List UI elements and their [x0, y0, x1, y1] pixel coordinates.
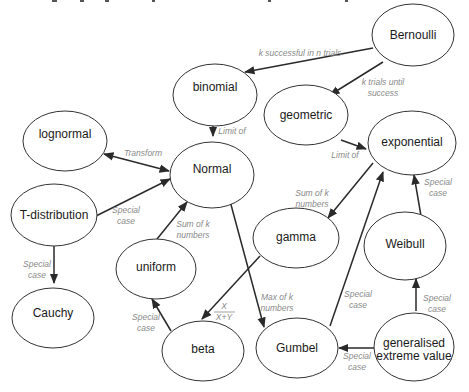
edge-tdist-normal: Special case	[96, 179, 170, 226]
edge-label: numbers	[176, 230, 210, 240]
edge-label: case	[428, 304, 446, 314]
node-generalised-extreme-value: generalised extreme value	[374, 313, 454, 381]
node-label: T-distribution	[20, 208, 89, 222]
edge-label: Special	[343, 351, 372, 361]
edge-label: Special	[132, 312, 161, 322]
edge-label: case	[348, 362, 366, 372]
edge-label: Sum of k	[295, 188, 329, 198]
node-label: beta	[191, 342, 215, 356]
node-label: Normal	[193, 162, 232, 176]
node-cauchy: Cauchy	[12, 288, 94, 348]
edge-label: success	[368, 88, 399, 98]
node-exponential: exponential	[368, 111, 456, 175]
edge-label: case	[429, 188, 447, 198]
node-label: Bernoulli	[390, 28, 437, 42]
node-t-distribution: T-distribution	[11, 184, 97, 246]
edge-label: numbers	[260, 303, 294, 313]
node-gumbel: Gumbel	[256, 318, 338, 378]
edge-label: case	[28, 270, 46, 280]
edge-gev-gumbel: Special case	[339, 348, 374, 372]
cropped-title-fragment	[52, 0, 348, 2]
node-gamma: gamma	[253, 208, 339, 268]
node-bernoulli: Bernoulli	[372, 4, 454, 66]
edge-beta-uniform: Special case	[132, 299, 171, 333]
edge-label: X	[220, 301, 227, 311]
edge-label: Special	[424, 177, 453, 187]
edge-bernoulli-binomial: k successful in n trials	[245, 48, 373, 72]
edge-label: case	[117, 216, 135, 226]
edge-label: Sum of k	[176, 219, 210, 229]
node-label: uniform	[136, 260, 176, 274]
node-label: Weibull	[385, 237, 424, 251]
node-geometric: geometric	[264, 85, 348, 145]
node-beta: beta	[162, 321, 244, 381]
node-label: Cauchy	[33, 306, 74, 320]
node-label: Gumbel	[276, 341, 318, 355]
edge-weibull-exponential: Special case	[414, 175, 453, 216]
node-lognormal: lognormal	[23, 111, 107, 171]
node-binomial: binomial	[173, 64, 257, 126]
node-label: exponential	[381, 135, 442, 149]
edge-label: Special	[23, 259, 52, 269]
edge-bernoulli-geometric: k trials until success	[330, 62, 405, 98]
edge-label: Special	[423, 293, 452, 303]
edge-label: Max of k	[261, 292, 294, 302]
edge-label: Special	[344, 289, 373, 299]
edge-tdist-cauchy: Special case	[23, 246, 54, 283]
node-label: lognormal	[39, 127, 92, 141]
edge-binomial-normal: Limit of	[213, 126, 247, 136]
node-weibull: Weibull	[364, 212, 446, 280]
node-uniform: uniform	[116, 239, 196, 299]
edge-label: k successful in n trials	[259, 48, 342, 58]
edge-gamma-beta: X X+Y	[202, 256, 260, 322]
edge-label: case	[349, 300, 367, 310]
node-label: gamma	[276, 230, 316, 244]
edge-label: case	[137, 323, 155, 333]
edge-label: Limit of	[331, 150, 360, 160]
edge-label: k trials until	[362, 77, 406, 87]
edge-label: Transform	[124, 148, 162, 158]
edge-geometric-exponential: Limit of	[331, 140, 366, 160]
node-normal: Normal	[170, 142, 254, 208]
edge-label: Special	[112, 205, 141, 215]
edge-label: Limit of	[218, 126, 247, 136]
edge-label: X+Y	[215, 312, 234, 322]
node-label: geometric	[280, 108, 333, 122]
edge-label: numbers	[295, 199, 329, 209]
distribution-diagram: k successful in n trials k trials until …	[0, 0, 469, 392]
node-label: extreme value	[376, 349, 452, 363]
edge-gev-weibull: Special case	[416, 279, 452, 314]
node-label: generalised	[383, 336, 445, 350]
edge-lognormal-normal: Transform	[104, 148, 169, 171]
node-label: binomial	[193, 80, 238, 94]
